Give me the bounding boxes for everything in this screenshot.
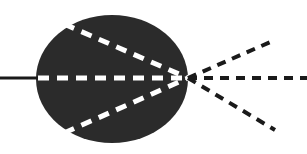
ray-diagram-figure — [0, 0, 307, 154]
diagram-canvas — [0, 0, 307, 154]
